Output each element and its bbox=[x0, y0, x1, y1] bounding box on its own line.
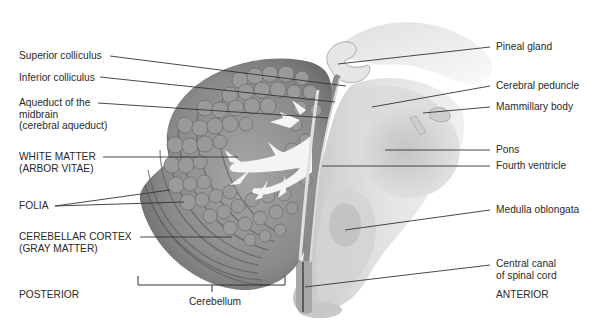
label-anterior: ANTERIOR bbox=[496, 289, 549, 301]
label-fourth-ventricle: Fourth ventricle bbox=[496, 160, 566, 172]
label-cerebellar-cortex: CEREBELLAR CORTEX (GRAY MATTER) bbox=[19, 231, 131, 254]
label-central-canal: Central canal of spinal cord bbox=[496, 258, 557, 281]
label-folia: FOLIA bbox=[19, 200, 48, 212]
brainstem-shape bbox=[293, 22, 492, 318]
label-superior-colliculus: Superior colliculus bbox=[19, 50, 102, 62]
label-cerebellum: Cerebellum bbox=[189, 296, 241, 308]
label-pons: Pons bbox=[496, 144, 519, 156]
label-inferior-colliculus: Inferior colliculus bbox=[19, 72, 95, 84]
cerebellum-diagram: Superior colliculus Inferior colliculus … bbox=[0, 0, 596, 328]
label-posterior: POSTERIOR bbox=[19, 289, 79, 301]
cerebellum-shape bbox=[140, 59, 332, 290]
label-aqueduct-of-midbrain: Aqueduct of the midbrain (cerebral aqued… bbox=[19, 97, 107, 132]
label-mammillary-body: Mammillary body bbox=[496, 101, 573, 113]
label-cerebral-peduncle: Cerebral peduncle bbox=[496, 80, 579, 92]
label-pineal-gland: Pineal gland bbox=[496, 41, 552, 53]
label-white-matter: WHITE MATTER (ARBOR VITAE) bbox=[19, 151, 96, 174]
label-medulla-oblongata: Medulla oblongata bbox=[496, 204, 579, 216]
